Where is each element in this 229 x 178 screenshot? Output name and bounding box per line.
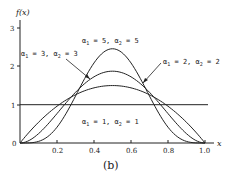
y-axis-label: f(x) bbox=[15, 8, 30, 17]
x-tick-0-8: 0.8 bbox=[163, 147, 174, 155]
arrowhead-a3 bbox=[85, 74, 90, 79]
annotation-a1-b1: α1 = 1, α2 = 1 bbox=[82, 118, 139, 127]
y-tick-3: 3 bbox=[10, 25, 14, 33]
annotation-a2-b2: α1 = 2, α2 = 2 bbox=[163, 58, 220, 67]
beta-density-chart: 0 1 2 3 0.2 0.4 0.6 0.8 1.0 f(x) x α1 = … bbox=[0, 0, 229, 178]
annotation-a3-b3: α1 = 3, α2 = 3 bbox=[21, 50, 78, 59]
y-tick-1: 1 bbox=[11, 102, 15, 110]
x-tick-1-0: 1.0 bbox=[199, 147, 210, 155]
x-tick-0-4: 0.4 bbox=[89, 147, 101, 155]
x-tick-0-6: 0.6 bbox=[126, 147, 138, 155]
y-tick-0: 0 bbox=[12, 140, 16, 148]
x-tick-0-2: 0.2 bbox=[52, 147, 63, 155]
x-ticks: 0.2 0.4 0.6 0.8 1.0 bbox=[52, 140, 210, 155]
y-ticks: 0 1 2 3 bbox=[10, 25, 20, 148]
curve-a2-b2 bbox=[20, 86, 205, 143]
figure-caption: (b) bbox=[103, 159, 119, 172]
x-axis-label: x bbox=[217, 139, 222, 148]
annotation-a5-b5: α1 = 5, α2 = 5 bbox=[82, 37, 139, 46]
y-tick-2: 2 bbox=[10, 63, 14, 71]
curve-a3-b3 bbox=[20, 71, 205, 143]
